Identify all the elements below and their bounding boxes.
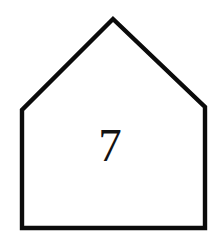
pentagon-figure-svg: 7 (0, 0, 222, 242)
shape-number-label: 7 (98, 119, 122, 171)
figure-canvas: 7 (0, 0, 222, 242)
